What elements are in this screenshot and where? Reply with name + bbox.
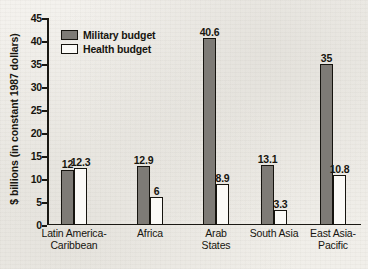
y-axis-tick-label: 45	[14, 12, 42, 24]
bar-value-label: 40.6	[200, 26, 220, 38]
bar-health: 3.3	[274, 210, 287, 225]
x-axis-label-line: East Asia-	[287, 228, 368, 240]
bar-military: 12.9	[137, 166, 150, 225]
x-axis-label-line: States	[170, 240, 262, 252]
bar-value-label: 10.8	[330, 163, 350, 175]
bar-health: 8.9	[216, 184, 229, 225]
legend-item: Military budget	[61, 29, 155, 41]
x-axis-category-labels: Latin America-CaribbeanAfricaArabStatesS…	[47, 228, 361, 268]
y-axis-tick-label: 10	[14, 173, 42, 185]
y-axis-tick-label: 20	[14, 127, 42, 139]
legend-item: Health budget	[61, 43, 155, 55]
bar-value-label: 12.3	[71, 156, 91, 168]
bar-health: 12.3	[74, 168, 87, 225]
x-axis-label: East Asia-Pacific	[287, 228, 368, 251]
legend-swatch-military	[61, 30, 78, 40]
chart-legend: Military budgetHealth budget	[61, 29, 155, 57]
legend-label: Health budget	[83, 43, 151, 55]
y-axis-tick-label: 25	[14, 104, 42, 116]
bar-value-label: 13.1	[258, 153, 278, 165]
bar-group: 3510.8	[320, 18, 346, 225]
y-axis-tick-label: 15	[14, 150, 42, 162]
bar-value-label: 3.3	[274, 198, 288, 210]
y-axis-tick-label: 30	[14, 81, 42, 93]
y-axis-tick-label: 5	[14, 196, 42, 208]
bar-health: 6	[150, 197, 163, 225]
x-axis-label-line: Pacific	[287, 240, 368, 252]
bar-value-label: 8.9	[216, 172, 230, 184]
legend-swatch-health	[61, 44, 78, 54]
bar-group: 40.68.9	[203, 18, 229, 225]
grouped-bar-chart: $ billions (in constant 1987 dollars) 12…	[0, 0, 368, 269]
y-axis-tick-label: 40	[14, 35, 42, 47]
bar-military: 40.6	[203, 38, 216, 225]
bar-health: 10.8	[333, 175, 346, 225]
bar-value-label: 6	[154, 185, 160, 197]
bar-military: 35	[320, 64, 333, 225]
bar-military: 13.1	[261, 165, 274, 225]
x-axis-label-line: Caribbean	[28, 240, 120, 252]
bar-military: 12	[61, 170, 74, 225]
bar-value-label: 12.9	[134, 154, 154, 166]
bar-value-label: 35	[321, 52, 332, 64]
bar-group: 13.13.3	[261, 18, 287, 225]
legend-label: Military budget	[83, 29, 155, 41]
y-axis-tick-label: 35	[14, 58, 42, 70]
